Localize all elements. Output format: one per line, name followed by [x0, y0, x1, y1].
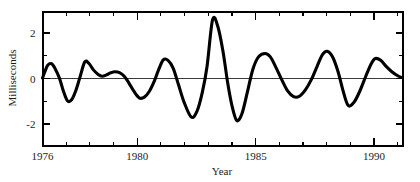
- y-tick-label: -2: [26, 118, 35, 130]
- line-chart: 1976198019851990 -202 Year Milliseconds: [0, 0, 420, 182]
- y-tick-label: 0: [30, 73, 36, 85]
- x-tick-label: 1990: [363, 150, 386, 162]
- x-tick-label: 1976: [32, 150, 55, 162]
- x-axis-title: Year: [212, 165, 233, 177]
- x-tick-label: 1985: [245, 150, 268, 162]
- y-axis-title: Milliseconds: [6, 50, 18, 107]
- y-tick-label: 2: [30, 27, 36, 39]
- chart-figure: 1976198019851990 -202 Year Milliseconds: [0, 0, 420, 182]
- x-tick-label: 1980: [126, 150, 149, 162]
